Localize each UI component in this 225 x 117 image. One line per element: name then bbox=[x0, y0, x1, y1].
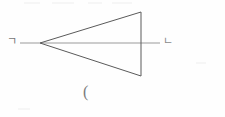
vertex-label-right: ㄴ bbox=[163, 36, 173, 47]
figure-canvas: ㄱ ㄴ ( bbox=[0, 0, 225, 117]
caption-paren: ( bbox=[83, 84, 88, 100]
geometry-drawing bbox=[0, 0, 225, 117]
triangle-shape bbox=[40, 12, 141, 76]
vertex-label-left: ㄱ bbox=[7, 36, 17, 47]
